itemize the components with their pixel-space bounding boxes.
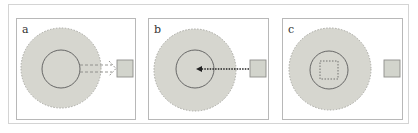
figure: a b c xyxy=(8,4,409,124)
panel-b: b xyxy=(148,18,269,120)
panel-a: a xyxy=(16,18,136,120)
outer-region xyxy=(21,28,101,108)
external-square xyxy=(384,60,400,77)
panel-c: c xyxy=(282,18,403,120)
panel-c-art xyxy=(283,19,404,121)
panel-label-a: a xyxy=(22,24,29,35)
panel-a-art xyxy=(17,19,137,121)
outer-region xyxy=(154,29,236,111)
panel-label-b: b xyxy=(154,24,161,35)
external-square xyxy=(250,60,266,77)
external-square xyxy=(117,60,133,77)
panel-b-art xyxy=(149,19,270,121)
outer-region xyxy=(289,28,371,110)
arrowhead-icon xyxy=(109,61,116,76)
panel-label-c: c xyxy=(288,24,294,35)
